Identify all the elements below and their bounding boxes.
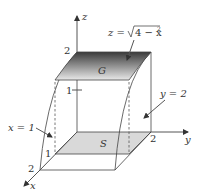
base-s-label: S xyxy=(100,138,107,149)
y-plane-annotation: y = 2 xyxy=(144,88,187,118)
z-tick-1: 1 xyxy=(66,85,72,96)
y-tick-2: 2 xyxy=(150,133,156,144)
z-axis-label: z xyxy=(81,11,88,22)
diagram-canvas: z 2 1 y 2 x 1 2 G S z = 4 − x 2 x = 1 y … xyxy=(0,0,198,196)
y-axis-label: y xyxy=(184,134,191,145)
x-tick-2: 2 xyxy=(28,163,34,174)
svg-text:z =: z = xyxy=(107,27,125,38)
svg-text:2: 2 xyxy=(157,25,161,32)
surface-g-label: G xyxy=(98,65,106,76)
svg-text:x = 1: x = 1 xyxy=(8,122,35,133)
svg-text:y = 2: y = 2 xyxy=(159,88,187,99)
x-tick-1: 1 xyxy=(45,148,51,159)
x-axis-label: x xyxy=(30,180,36,191)
z-tick-2: 2 xyxy=(64,45,70,56)
